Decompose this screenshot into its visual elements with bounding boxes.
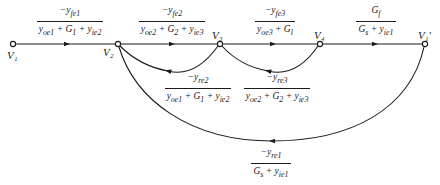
gain-denominator: yoe1 + G1 + yie2 — [165, 88, 232, 104]
node-v2 — [115, 41, 120, 46]
node-v4 — [317, 41, 322, 46]
gain-denominator: yoe2 + G2 + yie3 — [139, 21, 206, 37]
gain-denominator: yoe2 + G2 + yie3 — [244, 88, 311, 104]
node-v1p — [422, 41, 427, 46]
gain-denominator: Gs + yie1 — [251, 163, 290, 179]
node-label-v1p: V₁′ — [418, 29, 431, 41]
gain-v1p-v2: −yre1Gs + yie1 — [241, 148, 301, 179]
gain-v3-v4: −yfe3yoe3 + Gl — [245, 6, 305, 37]
gain-numerator: −yfe1 — [58, 6, 82, 21]
node-v1 — [10, 41, 15, 46]
node-label-v3: V₃ — [212, 29, 223, 41]
gain-denominator: yoe3 + Gl — [255, 21, 295, 37]
gain-denominator: yoe1 + G1 + yie2 — [37, 21, 104, 37]
gain-denominator: Gs + yie1 — [356, 21, 395, 37]
gain-numerator: −yfe3 — [263, 6, 287, 21]
gain-v4-v3: −yre3yoe2 + G2 + yie3 — [237, 73, 317, 104]
branch-v4-v3 — [268, 46, 318, 72]
gain-v3-v2: −yre2yoe1 + G1 + yie2 — [158, 73, 238, 104]
gain-v2-v3: −yfe2yoe2 + G2 + yie3 — [132, 6, 212, 37]
node-label-v4: V₄ — [314, 29, 325, 41]
gain-v1-v2: −yfe1yoe1 + G1 + yie2 — [30, 6, 110, 37]
gain-numerator: −yfe2 — [160, 6, 184, 21]
node-v3 — [217, 41, 222, 46]
gain-numerator: Gf — [369, 6, 382, 21]
gain-numerator: −yre1 — [259, 148, 284, 163]
branch-v3-v2 — [168, 46, 218, 72]
gain-numerator: −yre3 — [265, 73, 290, 88]
node-label-v2: V₂ — [103, 46, 114, 58]
gain-numerator: −yre2 — [186, 73, 211, 88]
node-label-v1: V₁ — [7, 49, 18, 61]
gain-v4-v1p: GfGs + yie1 — [346, 6, 406, 37]
